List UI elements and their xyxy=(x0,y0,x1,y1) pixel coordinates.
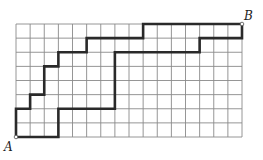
grid xyxy=(16,24,242,137)
lattice-diagram: A B xyxy=(0,0,263,160)
point-a xyxy=(14,135,18,139)
point-b-label: B xyxy=(243,9,253,23)
point-a-label: A xyxy=(3,140,13,154)
